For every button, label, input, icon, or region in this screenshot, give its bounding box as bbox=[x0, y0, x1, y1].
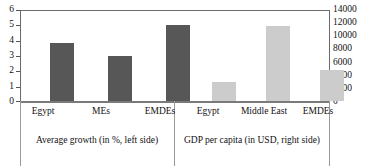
right-axis-tick-14000: 14000 bbox=[333, 5, 357, 15]
bar-gdp-middle-east bbox=[266, 26, 290, 101]
axis-baseline bbox=[20, 101, 330, 103]
panel-caption-gdp-per-capita: GDP per capita (in USD, right side) bbox=[177, 135, 327, 147]
category-label-growth-mes: MEs bbox=[76, 106, 126, 117]
bar-gdp-egypt bbox=[212, 82, 236, 102]
right-axis-tick-8000: 8000 bbox=[333, 45, 352, 55]
category-label-gdp-middle-east: Middle East bbox=[238, 106, 290, 117]
right-axis-tick-10000: 10000 bbox=[333, 32, 357, 42]
category-label-gdp-egypt: Egypt bbox=[183, 106, 233, 117]
category-label-gdp-emdes: EMDEs bbox=[290, 106, 346, 117]
right-axis-tick-12000: 12000 bbox=[333, 18, 357, 28]
plot-area bbox=[20, 10, 330, 102]
panel-caption-average-growth: Average growth (in %, left side) bbox=[22, 135, 172, 147]
right-axis-tick-6000: 6000 bbox=[333, 58, 352, 68]
left-axis-spine bbox=[20, 10, 21, 102]
category-label-growth-emdes: EMDEs bbox=[132, 106, 188, 117]
bar-growth-emdes bbox=[166, 25, 190, 101]
bar-growth-mes bbox=[108, 56, 132, 102]
bar-chart-figure: 0 1 2 3 4 5 6 0 2000 4000 6000 8000 1000… bbox=[0, 0, 373, 166]
bar-gdp-emdes bbox=[320, 70, 344, 101]
category-label-growth-egypt: Egypt bbox=[18, 106, 68, 117]
bar-growth-egypt bbox=[50, 43, 74, 101]
axis-top-line bbox=[20, 10, 330, 11]
